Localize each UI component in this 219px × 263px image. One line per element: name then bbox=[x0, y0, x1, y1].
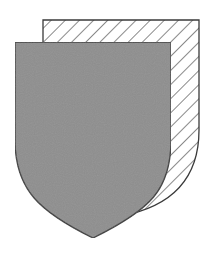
shield-diagram bbox=[0, 0, 219, 263]
shields-graphic bbox=[0, 0, 219, 263]
